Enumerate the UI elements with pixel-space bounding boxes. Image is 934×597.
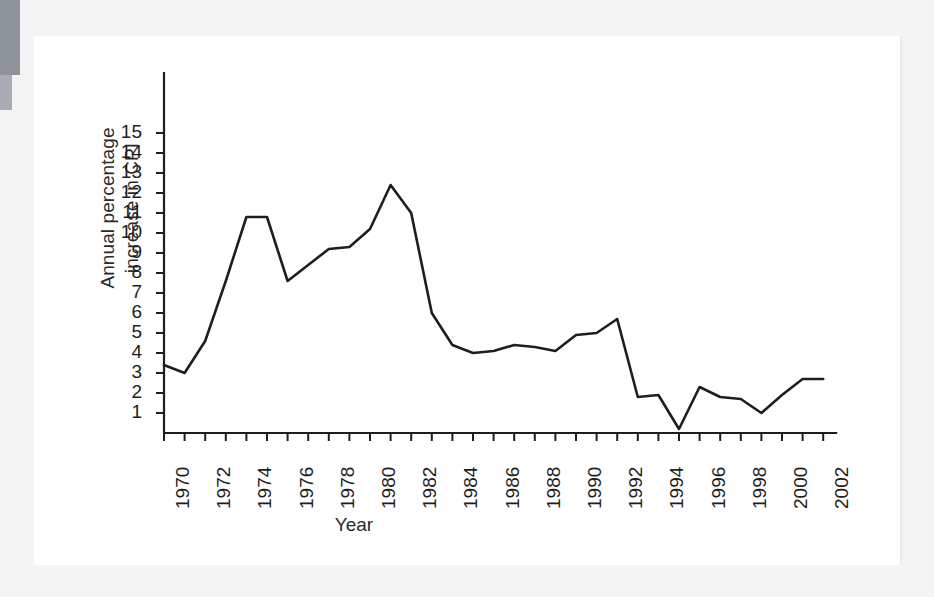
data-series-line <box>164 185 823 429</box>
line-chart: Annual percentage increase in CPI Year 1… <box>34 36 900 565</box>
scan-edge-bar <box>0 0 20 75</box>
plot-canvas <box>34 36 900 565</box>
screenshot-root: Annual percentage increase in CPI Year 1… <box>0 0 934 597</box>
figure-panel: Annual percentage increase in CPI Year 1… <box>34 36 900 565</box>
y-tick-marks <box>156 133 164 413</box>
x-tick-marks <box>164 433 823 441</box>
axes <box>164 72 837 433</box>
